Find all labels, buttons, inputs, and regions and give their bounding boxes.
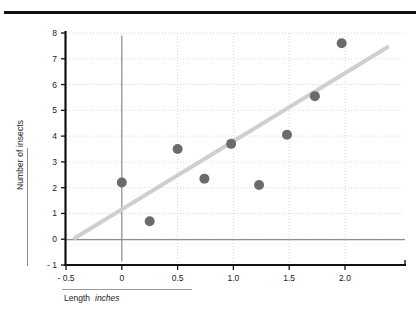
x-axis-title-name: Length — [64, 293, 90, 303]
x-axis-title: Lengthinches — [64, 293, 120, 303]
x-axis-tick-label: 1.0 — [227, 273, 239, 283]
y-axis-tick-label: 7 — [52, 54, 57, 64]
data-point — [337, 38, 347, 48]
x-axis-tick-label: 2.0 — [339, 273, 351, 283]
data-point — [117, 178, 127, 188]
x-axis-tick-label: 0 — [119, 273, 124, 283]
y-axis-tick-label: 8 — [52, 28, 57, 38]
data-point — [254, 180, 264, 190]
x-axis-tick-label: 0.5 — [172, 273, 184, 283]
chart-page: Number of insects - 1012345678- 0.500.51… — [0, 0, 420, 320]
data-point — [173, 144, 183, 154]
data-point — [310, 91, 320, 101]
x-axis-tick-label: - 0.5 — [57, 273, 74, 283]
x-axis-tick-label: 1.5 — [283, 273, 295, 283]
y-axis-tick-label: 3 — [52, 157, 57, 167]
x-axis-title-rule — [62, 289, 192, 290]
y-axis-tick-label: - 1 — [47, 260, 57, 270]
data-point — [145, 216, 155, 226]
data-point — [226, 139, 236, 149]
data-point — [199, 174, 209, 184]
y-axis-tick-label: 1 — [52, 208, 57, 218]
x-axis-title-unit: inches — [95, 293, 120, 303]
y-axis-tick-label: 6 — [52, 80, 57, 90]
chart-canvas: - 1012345678- 0.500.51.01.52.0 — [0, 0, 420, 320]
y-axis-tick-label: 0 — [52, 234, 57, 244]
scatter-chart: Number of insects - 1012345678- 0.500.51… — [0, 0, 420, 320]
y-axis-tick-label: 2 — [52, 183, 57, 193]
y-axis-tick-label: 5 — [52, 105, 57, 115]
data-point — [282, 130, 292, 140]
y-axis-tick-label: 4 — [52, 131, 57, 141]
